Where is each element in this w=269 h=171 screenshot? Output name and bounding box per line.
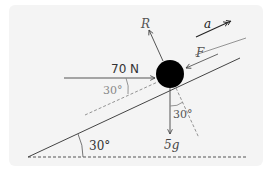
normal-reaction-label: R	[140, 17, 150, 31]
incline-angle-arc	[78, 134, 83, 157]
acceleration-label: a	[204, 17, 211, 31]
friction-label: F	[195, 46, 205, 60]
horizontal-force-label: 70 N	[111, 62, 139, 76]
weight-angle-arc	[170, 102, 183, 106]
incline-diagram: 30° 70 N 30° F R a 5g 30°	[0, 0, 269, 171]
horizontal-force-angle-label: 30°	[103, 84, 123, 97]
normal-reaction-arrow	[149, 30, 163, 61]
horizontal-force-angle-arc	[126, 78, 128, 94]
parallel-dashed-line	[85, 80, 162, 115]
particle-ball	[156, 60, 184, 88]
acceleration-arrow	[196, 21, 231, 37]
incline-angle-label: 30°	[89, 139, 110, 153]
weight-label: 5g	[164, 138, 180, 152]
weight-angle-label: 30°	[173, 108, 193, 121]
